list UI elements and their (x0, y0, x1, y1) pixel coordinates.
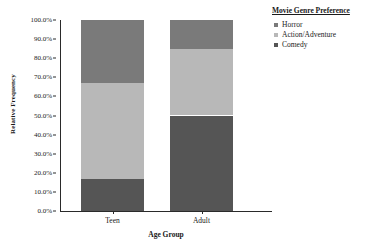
y-tick-label: 90.0% (14, 36, 52, 43)
y-tick-label: 20.0% (14, 169, 52, 176)
x-tick-mark (202, 211, 203, 214)
y-tick-mark (53, 58, 56, 59)
y-tick-mark (53, 115, 56, 116)
stacked-bar-chart: Relative Frequency 0.0%10.0%20.0%30.0%40… (0, 0, 366, 247)
legend-item[interactable]: Horror (272, 20, 366, 29)
bar-stack-adult[interactable] (170, 20, 233, 211)
y-tick-mark (53, 153, 56, 154)
y-tick-mark (53, 211, 56, 212)
legend: Movie Genre Preference HorrorAction/Adve… (272, 6, 366, 50)
bar-stack-teen[interactable] (81, 20, 144, 211)
y-axis-line (60, 20, 61, 211)
y-tick-mark (53, 134, 56, 135)
legend-items: HorrorAction/AdventureComedy (272, 20, 366, 49)
y-tick-label: 60.0% (14, 93, 52, 100)
y-tick-label: 50.0% (14, 112, 52, 119)
bar-segment[interactable] (81, 179, 144, 211)
legend-title: Movie Genre Preference (272, 6, 366, 15)
legend-item-label: Action/Adventure (282, 30, 336, 39)
y-tick-label: 0.0% (14, 208, 52, 215)
y-tick-label: 30.0% (14, 150, 52, 157)
legend-swatch-icon (274, 23, 278, 27)
bar-segment[interactable] (170, 116, 233, 212)
legend-item-label: Comedy (282, 40, 307, 49)
y-tick-label: 100.0% (14, 17, 52, 24)
y-tick-mark (53, 172, 56, 173)
y-tick-label: 70.0% (14, 74, 52, 81)
y-tick-label: 10.0% (14, 188, 52, 195)
x-axis-line (60, 211, 272, 212)
x-tick-mark (113, 211, 114, 214)
legend-swatch-icon (274, 33, 278, 37)
legend-item[interactable]: Action/Adventure (272, 30, 366, 39)
y-tick-mark (53, 77, 56, 78)
y-tick-mark (53, 20, 56, 21)
legend-item[interactable]: Comedy (272, 40, 366, 49)
bar-segment[interactable] (170, 20, 233, 49)
y-tick-mark (53, 39, 56, 40)
x-tick-label: Teen (73, 216, 153, 225)
y-axis-tick-labels: 0.0%10.0%20.0%30.0%40.0%50.0%60.0%70.0%8… (18, 20, 56, 211)
x-axis-title: Age Group (60, 230, 272, 239)
bar-segment[interactable] (81, 20, 144, 83)
y-tick-label: 80.0% (14, 55, 52, 62)
bar-segment[interactable] (81, 83, 144, 179)
bar-segment[interactable] (170, 49, 233, 116)
legend-item-label: Horror (282, 20, 302, 29)
plot-area: TeenAdult Age Group (60, 20, 260, 211)
x-tick-label: Adult (162, 216, 242, 225)
y-tick-mark (53, 191, 56, 192)
legend-swatch-icon (274, 43, 278, 47)
y-tick-mark (53, 96, 56, 97)
y-tick-label: 40.0% (14, 131, 52, 138)
